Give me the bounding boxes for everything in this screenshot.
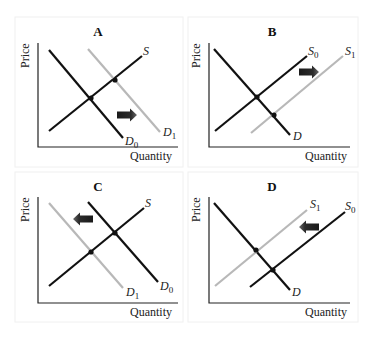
- y-axis-label: Price: [18, 43, 32, 68]
- equilibrium-point: [253, 247, 258, 252]
- panel-c: CPriceQuantityD1D0S: [15, 172, 183, 322]
- y-axis-label: Price: [189, 197, 203, 222]
- curve-label: S: [145, 196, 151, 210]
- equilibrium-point: [254, 94, 259, 99]
- equilibrium-point: [270, 267, 275, 272]
- panel-b: BPriceQuantityDS0S1: [188, 17, 358, 167]
- panel-d: DPriceQuantityDS1S0: [188, 172, 358, 322]
- y-axis-label: Price: [18, 197, 32, 222]
- equilibrium-point: [88, 95, 93, 100]
- panel-a: APriceQuantityD0SD1: [15, 17, 183, 167]
- x-axis-label: Quantity: [305, 149, 347, 163]
- equilibrium-point: [271, 112, 276, 117]
- panel-title: D: [267, 179, 276, 194]
- panel-title: B: [268, 24, 277, 39]
- panel-title: A: [93, 24, 103, 39]
- equilibrium-point: [88, 249, 93, 254]
- curve-label: S: [143, 44, 149, 58]
- curve-label: D: [292, 129, 302, 143]
- equilibrium-point: [112, 230, 117, 235]
- y-axis-label: Price: [189, 43, 203, 68]
- x-axis-label: Quantity: [305, 305, 347, 319]
- x-axis-label: Quantity: [130, 149, 172, 163]
- panel-frame: [188, 17, 358, 167]
- panel-frame: [188, 172, 358, 322]
- supply-demand-figure: APriceQuantityD0SD1BPriceQuantityDS0S1CP…: [0, 0, 374, 338]
- x-axis-label: Quantity: [130, 305, 172, 319]
- curve-label: D: [291, 285, 301, 299]
- panel-title: C: [93, 179, 102, 194]
- panels-container: APriceQuantityD0SD1BPriceQuantityDS0S1CP…: [15, 17, 358, 322]
- panel-frame: [15, 172, 183, 322]
- equilibrium-point: [112, 77, 117, 82]
